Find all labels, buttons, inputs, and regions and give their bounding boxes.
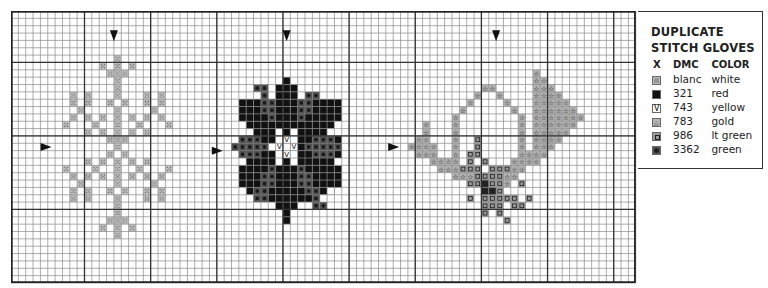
dot-symbol-icon (118, 226, 119, 227)
stitch-321-red (312, 129, 319, 136)
circle-symbol-icon (314, 196, 319, 201)
dot-symbol-icon (64, 170, 65, 171)
dot-symbol-icon (163, 118, 164, 119)
stitch-321-red (334, 151, 341, 158)
stitch-empty (246, 195, 253, 202)
dot-symbol-icon (96, 170, 97, 171)
dot-symbol-icon (73, 95, 74, 96)
dot-symbol-icon (101, 64, 102, 65)
stitch-321-red (312, 114, 319, 121)
legend-title-line1: DUPLICATE (651, 24, 762, 40)
dot-symbol-icon (117, 88, 118, 89)
dot-symbol-icon (111, 101, 112, 102)
dot-symbol-icon (163, 174, 164, 175)
dot-symbol-icon (117, 110, 118, 111)
dot-symbol-icon (124, 191, 125, 192)
dot-symbol-icon (130, 116, 131, 117)
dot-symbol-icon (148, 130, 149, 131)
stitch-321-red (327, 158, 334, 165)
circle-symbol-icon (328, 145, 333, 150)
circle-symbol-icon (269, 115, 274, 120)
circle-symbol-icon (306, 174, 311, 179)
dot-symbol-icon (118, 214, 119, 215)
dot-symbol-icon (88, 95, 89, 96)
dot-symbol-icon (86, 104, 87, 105)
symbol-star-icon: ☆ (651, 114, 673, 128)
dot-symbol-icon (118, 123, 119, 124)
dot-symbol-icon (117, 183, 118, 184)
star-symbol-icon: ☆ (409, 143, 415, 151)
dot-symbol-icon (116, 196, 117, 197)
stitch-321-red (254, 107, 261, 114)
dot-symbol-icon (146, 102, 147, 103)
dot-symbol-icon (116, 96, 117, 97)
dot-symbol-icon (167, 126, 168, 127)
dot-symbol-icon (117, 66, 118, 67)
v-symbol-icon: V (284, 136, 289, 144)
stitch-321-red (254, 99, 261, 106)
circle-symbol-icon (321, 137, 326, 142)
dot-symbol-icon (126, 155, 127, 156)
dot-symbol-icon (133, 163, 134, 164)
dot-symbol-icon (116, 177, 117, 178)
dot-symbol-icon (117, 161, 118, 162)
dot-symbol-icon (108, 152, 109, 153)
dot-symbol-icon (170, 167, 171, 168)
stitch-321-red (246, 187, 253, 194)
star-symbol-icon: ☆ (512, 107, 518, 115)
star-symbol-icon: ☆ (445, 166, 451, 174)
dot-symbol-icon (94, 126, 95, 127)
stitch-321-red (283, 209, 290, 216)
legend-box: DUPLICATE STITCH GLOVES X DMC COLOR blan… (638, 11, 763, 169)
dot-symbol-icon (126, 192, 127, 193)
right-arrow-icon (41, 143, 52, 151)
dot-symbol-icon (117, 73, 118, 74)
dot-symbol-icon (118, 130, 119, 131)
dot-symbol-icon (130, 118, 131, 119)
dot-symbol-icon (116, 71, 117, 72)
circle-symbol-icon (336, 145, 341, 150)
stitch-986-lt-green (496, 187, 503, 194)
dot-symbol-icon (130, 130, 131, 131)
star-symbol-icon: ☆ (497, 92, 503, 100)
dot-symbol-icon (116, 82, 117, 83)
circle-symbol-icon (299, 100, 304, 105)
legend-header-dmc: DMC (673, 58, 711, 72)
dot-symbol-icon (104, 229, 105, 230)
dot-symbol-icon (133, 130, 134, 131)
stitch-321-red (283, 121, 290, 128)
dot-symbol-icon (130, 160, 131, 161)
dot-symbol-icon (145, 192, 146, 193)
dot-symbol-icon (116, 74, 117, 75)
stitch-321-red (305, 195, 312, 202)
stitch-321-red (320, 187, 327, 194)
dot-symbol-icon (118, 111, 119, 112)
dot-symbol-icon (104, 226, 105, 227)
stitch-986-lt-green (481, 202, 488, 209)
dot-symbol-icon (111, 71, 112, 72)
dot-symbol-icon (89, 116, 90, 117)
dot-symbol-icon (118, 138, 119, 139)
dot-symbol-icon (104, 116, 105, 117)
stitch-321-red (298, 129, 305, 136)
stitch-empty (232, 121, 239, 128)
chart-svg: VVVV☆☆☆☆☆☆☆☆☆☆☆☆☆☆☆☆☆☆☆☆☆☆☆☆☆☆☆☆☆☆☆☆☆☆☆☆… (11, 11, 638, 285)
dot-symbol-icon (110, 73, 111, 74)
dot-symbol-icon (94, 123, 95, 124)
circle-symbol-icon (262, 196, 267, 201)
star-symbol-icon: ☆ (453, 173, 459, 181)
dot-symbol-icon (89, 96, 90, 97)
dot-symbol-icon (94, 167, 95, 168)
stitch-986-lt-green (467, 180, 474, 187)
stitch-empty (239, 129, 246, 136)
star-symbol-icon: ☆ (482, 85, 488, 93)
dot-symbol-icon (118, 116, 119, 117)
dot-symbol-icon (111, 104, 112, 105)
dot-symbol-icon (152, 108, 153, 109)
dot-symbol-icon (117, 80, 118, 81)
dot-symbol-icon (67, 170, 68, 171)
dot-symbol-icon (116, 67, 117, 68)
dot-symbol-icon (102, 176, 103, 177)
stitch-321-red (334, 173, 341, 180)
dot-symbol-icon (71, 104, 72, 105)
